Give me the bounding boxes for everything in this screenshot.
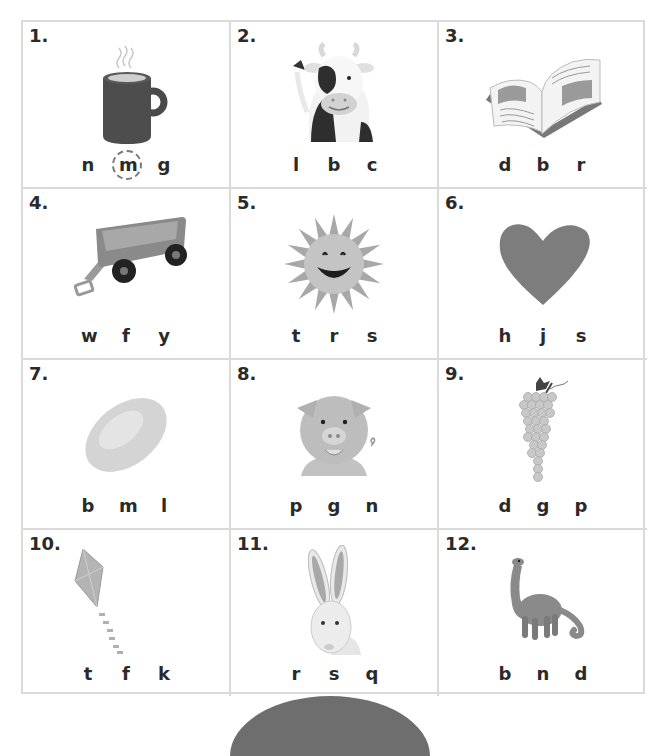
cow-icon xyxy=(231,42,437,152)
letter-choice[interactable]: d xyxy=(498,495,512,516)
grape-berry xyxy=(534,473,543,482)
grape-berry xyxy=(538,441,547,450)
letter-choices: t f k xyxy=(23,663,229,684)
letter-choice[interactable]: g xyxy=(157,154,171,175)
letter-choices: w f y xyxy=(23,325,229,346)
letter-choice[interactable]: j xyxy=(536,325,550,346)
item-cell-12: 12. b n d xyxy=(439,530,647,696)
letter-choice[interactable]: g xyxy=(327,495,341,516)
letter-choice[interactable]: g xyxy=(536,495,550,516)
letter-choices: b m l xyxy=(23,495,229,516)
pig-icon xyxy=(231,380,437,490)
item-cell-4: 4. w f y xyxy=(23,189,231,360)
sun-ray xyxy=(284,259,306,269)
letter-choice[interactable]: f xyxy=(119,663,133,684)
letter-choice[interactable]: q xyxy=(365,663,379,684)
sun-icon xyxy=(231,209,437,319)
heart-icon xyxy=(439,209,647,319)
letter-choice[interactable]: h xyxy=(498,325,512,346)
grape-berry xyxy=(546,409,555,418)
letter-choice[interactable]: r xyxy=(574,154,588,175)
letter-choice[interactable]: w xyxy=(81,325,95,346)
letter-choices: b n d xyxy=(439,663,647,684)
letter-choice[interactable]: b xyxy=(327,154,341,175)
item-cell-10: 10. t f k xyxy=(23,530,231,696)
rabbit-icon xyxy=(231,550,437,660)
sun-ray xyxy=(329,292,339,314)
letter-choice[interactable]: y xyxy=(157,325,171,346)
letter-choices: d b r xyxy=(439,154,647,175)
dinosaur-icon xyxy=(439,550,647,660)
grape-berry xyxy=(548,393,557,402)
letter-choice[interactable]: n xyxy=(365,495,379,516)
letter-choice[interactable]: r xyxy=(327,325,341,346)
letter-choice[interactable]: p xyxy=(289,495,303,516)
letter-choice[interactable]: p xyxy=(574,495,588,516)
wagon-icon xyxy=(23,209,229,319)
item-cell-9: 9. d g p xyxy=(439,360,647,530)
letter-choice[interactable]: d xyxy=(498,154,512,175)
item-cell-3: 3. d b r xyxy=(439,22,647,189)
letter-choice[interactable]: b xyxy=(81,495,95,516)
sun-ray xyxy=(329,214,339,236)
sun-ray xyxy=(362,259,384,269)
grape-berry xyxy=(542,425,551,434)
letter-choice[interactable]: s xyxy=(365,325,379,346)
item-cell-6: 6. h j s xyxy=(439,189,647,360)
letter-choice[interactable]: r xyxy=(289,663,303,684)
lemon-icon xyxy=(23,380,229,490)
letter-choice[interactable]: l xyxy=(157,495,171,516)
item-cell-2: 2. l b c xyxy=(231,22,439,189)
letter-choice[interactable]: b xyxy=(536,154,550,175)
letter-choice[interactable]: s xyxy=(327,663,341,684)
grape-berry xyxy=(536,449,545,458)
letter-choice[interactable]: s xyxy=(574,325,588,346)
letter-choices: l b c xyxy=(231,154,437,175)
letter-choice-circled[interactable]: m xyxy=(119,154,133,175)
letter-choice[interactable]: m xyxy=(119,495,133,516)
letter-choice[interactable]: d xyxy=(574,663,588,684)
grape-berry xyxy=(544,401,553,410)
grape-berry xyxy=(540,417,549,426)
kite-icon xyxy=(23,550,229,660)
letter-choice[interactable]: t xyxy=(81,663,95,684)
mug-icon xyxy=(23,42,229,152)
letter-choices: t r s xyxy=(231,325,437,346)
letter-choice[interactable]: t xyxy=(289,325,303,346)
letter-choice[interactable]: n xyxy=(81,154,95,175)
letter-choices: d g p xyxy=(439,495,647,516)
letter-choices: p g n xyxy=(231,495,437,516)
letter-choice[interactable]: f xyxy=(119,325,133,346)
letter-choice[interactable]: l xyxy=(289,154,303,175)
grapes-icon xyxy=(439,380,647,490)
letter-choice[interactable]: b xyxy=(498,663,512,684)
letter-choice[interactable]: n xyxy=(536,663,550,684)
item-cell-1: 1. n m g xyxy=(23,22,231,189)
letter-choices: n m g xyxy=(23,154,229,175)
item-cell-5: 5. t r s xyxy=(231,189,439,360)
book-icon xyxy=(439,42,647,152)
item-cell-7: 7. b m l xyxy=(23,360,231,530)
letter-choice[interactable]: k xyxy=(157,663,171,684)
grape-berry xyxy=(540,433,549,442)
item-cell-8: 8. p g n xyxy=(231,360,439,530)
item-cell-11: 11. r s q xyxy=(231,530,439,696)
decorative-circle-top xyxy=(230,696,430,756)
letter-choices: r s q xyxy=(231,663,437,684)
letter-choices: h j s xyxy=(439,325,647,346)
worksheet-grid: 1. n m g 2. xyxy=(21,20,645,694)
letter-choice[interactable]: c xyxy=(365,154,379,175)
